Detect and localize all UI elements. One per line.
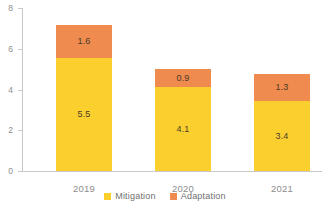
- bar-segment-adaptation[interactable]: 1.3: [254, 74, 310, 101]
- bar-segment-adaptation[interactable]: 1.6: [56, 25, 112, 58]
- legend-label: Mitigation: [115, 192, 156, 201]
- y-axis-tick-label: 6: [8, 45, 13, 54]
- plot-area: 86420 1.6 5.5 0.9: [22, 8, 322, 172]
- bar-value-label: 3.4: [275, 132, 288, 141]
- y-axis-tick-label: 0: [8, 167, 13, 176]
- legend-item-adaptation[interactable]: Adaptation: [170, 192, 226, 201]
- y-axis-tick-label: 8: [8, 4, 13, 13]
- bar-segment-mitigation[interactable]: 4.1: [155, 87, 211, 171]
- bar-value-label: 5.5: [77, 110, 90, 119]
- bar-stack: 1.3 3.4: [254, 74, 310, 171]
- legend-swatch-icon: [104, 193, 111, 200]
- stacked-bar-chart: 86420 1.6 5.5 0.9: [0, 0, 330, 211]
- y-axis-tick-label: 4: [8, 86, 13, 95]
- bar-group-2021[interactable]: 1.3 3.4: [254, 74, 310, 171]
- legend-swatch-icon: [170, 193, 177, 200]
- bar-stack: 0.9 4.1: [155, 69, 211, 171]
- bar-stack: 1.6 5.5: [56, 25, 112, 171]
- legend-label: Adaptation: [181, 192, 226, 201]
- legend-item-mitigation[interactable]: Mitigation: [104, 192, 156, 201]
- bar-group-2020[interactable]: 0.9 4.1: [155, 69, 211, 171]
- bar-segment-adaptation[interactable]: 0.9: [155, 69, 211, 87]
- bar-value-label: 0.9: [176, 74, 189, 83]
- y-axis-tick-label: 2: [8, 126, 13, 135]
- bar-group-2019[interactable]: 1.6 5.5: [56, 25, 112, 171]
- bar-segment-mitigation[interactable]: 5.5: [56, 58, 112, 171]
- bar-value-label: 1.6: [77, 37, 90, 46]
- bar-value-label: 4.1: [176, 125, 189, 134]
- bars-layer: 1.6 5.5 0.9 4.1: [22, 8, 322, 172]
- bar-value-label: 1.3: [275, 83, 288, 92]
- bar-segment-mitigation[interactable]: 3.4: [254, 101, 310, 171]
- chart-legend: Mitigation Adaptation: [0, 192, 330, 201]
